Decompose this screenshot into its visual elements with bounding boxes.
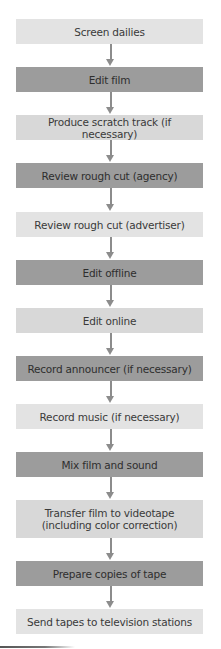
step-transfer-film-to-videotape: Transfer film to videotape (including co… — [16, 500, 203, 538]
arrow-down-icon — [106, 92, 115, 115]
step-edit-film: Edit film — [16, 67, 203, 92]
step-edit-offline: Edit offline — [16, 260, 203, 285]
step-prepare-copies-of-tape: Prepare copies of tape — [16, 561, 203, 586]
arrow-down-icon — [106, 188, 115, 212]
step-record-announcer: Record announcer (if necessary) — [16, 356, 203, 381]
arrow-down-icon — [106, 44, 115, 67]
arrow-down-icon — [106, 333, 115, 356]
step-send-tapes-to-stations: Send tapes to television stations — [16, 609, 203, 634]
arrow-down-icon — [106, 477, 115, 500]
step-record-music: Record music (if necessary) — [16, 404, 203, 429]
arrow-down-icon — [106, 538, 115, 561]
arrow-down-icon — [106, 237, 115, 260]
step-review-rough-cut-advertiser: Review rough cut (advertiser) — [16, 212, 203, 237]
step-screen-dailies: Screen dailies — [16, 19, 203, 44]
arrow-down-icon — [106, 586, 115, 609]
arrow-down-icon — [106, 381, 115, 404]
arrow-down-icon — [106, 429, 115, 452]
step-edit-online: Edit online — [16, 308, 203, 333]
step-mix-film-and-sound: Mix film and sound — [16, 452, 203, 477]
arrow-down-icon — [106, 285, 115, 308]
bottom-divider — [0, 646, 75, 648]
arrow-down-icon — [106, 140, 115, 163]
step-produce-scratch-track: Produce scratch track (if necessary) — [16, 115, 203, 140]
step-review-rough-cut-agency: Review rough cut (agency) — [16, 163, 203, 188]
